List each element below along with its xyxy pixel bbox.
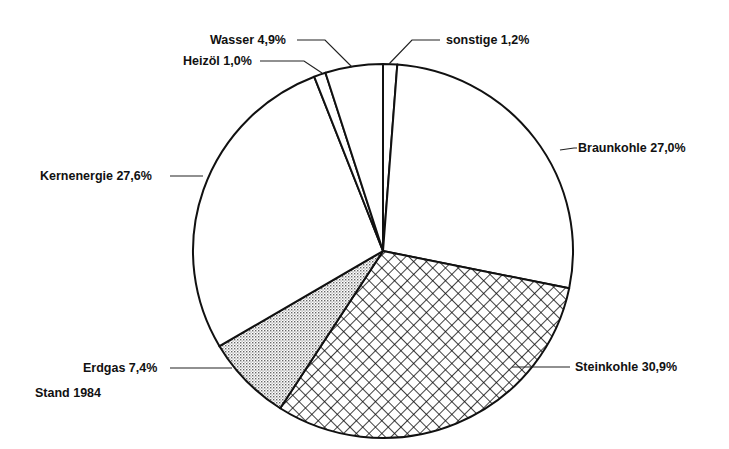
label-erdgas: Erdgas 7,4% [83,361,157,375]
label-steinkohle: Steinkohle 30,9% [575,360,677,374]
leader-heizoel [260,61,322,73]
slice-braunkohle [383,65,573,289]
label-kernenergie: Kernenergie 27,6% [40,169,152,183]
leader-wasser [297,40,352,67]
pie-slices [193,64,573,438]
pie-chart: sonstige 1,2% Braunkohle 27,0% Steinkohl… [0,0,729,449]
label-braunkohle: Braunkohle 27,0% [578,141,686,155]
label-heizoel: Heizöl 1,0% [183,54,252,68]
leader-sonstige [389,40,440,64]
leader-braunkohle [560,148,577,150]
annotation-stand: Stand 1984 [35,386,101,400]
label-sonstige: sonstige 1,2% [446,33,529,47]
label-wasser: Wasser 4,9% [210,33,286,47]
